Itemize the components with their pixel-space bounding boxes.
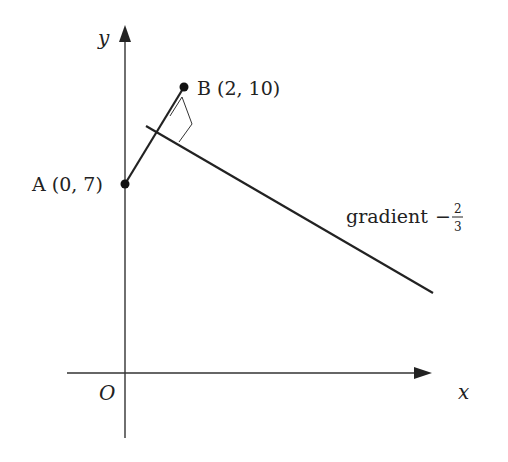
point-a	[121, 180, 130, 189]
point-a-label: A (0, 7)	[31, 173, 103, 195]
gradient-denominator: 3	[454, 220, 462, 234]
gradient-label: gradient	[346, 205, 428, 227]
y-axis-arrow-icon	[119, 25, 131, 42]
origin-label: O	[99, 381, 115, 405]
segment-ab	[125, 87, 184, 184]
y-axis-label: y	[97, 26, 110, 50]
gradient-sign: −	[435, 205, 451, 227]
point-b-label: B (2, 10)	[197, 77, 280, 99]
x-axis-arrow-icon	[414, 367, 432, 379]
diagram-canvas: y x O A (0, 7) B (2, 10) gradient − 2 3	[0, 0, 508, 462]
gradient-numerator: 2	[454, 202, 462, 216]
x-axis-label: x	[458, 380, 469, 404]
point-b	[180, 83, 189, 92]
coordinate-diagram: y x O A (0, 7) B (2, 10) gradient − 2 3	[0, 0, 508, 462]
